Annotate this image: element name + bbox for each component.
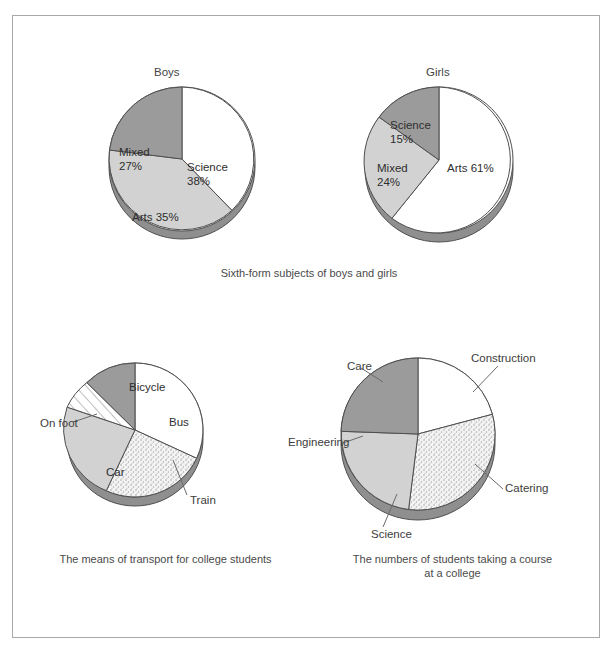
leader-line-construction <box>473 366 498 392</box>
pie-label-boys-science: Science 38% <box>187 161 228 188</box>
chart-transport-pie <box>35 354 305 544</box>
pie-label-girls-science-value: 15% <box>390 133 413 145</box>
chart-transport: On foot Bicycle Bus Car Train <box>35 354 305 544</box>
pie-label-girls-mixed-value: 24% <box>377 176 400 188</box>
caption-bottom-right: The numbers of students taking a course … <box>325 553 580 581</box>
caption-bottom-left: The means of transport for college stude… <box>33 553 298 567</box>
pie-label-girls-science-name: Science <box>390 119 431 131</box>
pie-label-boys-mixed-name: Mixed <box>119 146 150 158</box>
pie-label-boys-science-value: 38% <box>187 175 210 187</box>
chart-girls-pie <box>351 66 561 251</box>
pie-label-transport-car: Car <box>106 466 125 479</box>
pie-label-transport-onfoot: On foot <box>40 417 78 430</box>
pie-label-college-catering: Catering <box>505 482 548 495</box>
pie-label-college-science: Science <box>371 528 412 541</box>
chart-girls-title: Girls <box>426 66 450 79</box>
figure-frame: Boys Mixed 27% <box>12 15 600 638</box>
caption-top: Sixth-form subjects of boys and girls <box>159 267 459 281</box>
pie-label-girls-mixed-name: Mixed <box>377 162 408 174</box>
chart-college: Construction Care Catering Science Engin… <box>313 344 603 549</box>
pie-label-college-construction: Construction <box>471 352 536 365</box>
pie-label-college-engineering: Engineering <box>288 436 349 449</box>
chart-college-pie <box>313 344 603 549</box>
pie-label-girls-mixed: Mixed 24% <box>377 162 408 189</box>
chart-boys-title: Boys <box>154 66 180 79</box>
pie-label-girls-science: Science 15% <box>390 119 431 146</box>
pie-label-girls-arts: Arts 61% <box>447 162 494 175</box>
pie-label-college-care: Care <box>347 360 372 373</box>
pie-label-transport-train: Train <box>190 494 216 507</box>
chart-boys: Boys Mixed 27% <box>91 66 291 266</box>
pie-label-boys-arts: Arts 35% <box>132 211 179 224</box>
pie-label-boys-mixed: Mixed 27% <box>119 146 150 173</box>
pie-label-transport-bus: Bus <box>169 416 189 429</box>
chart-girls: Girls Science 15% Mixed 24% <box>351 66 561 266</box>
screenshot-page: Boys Mixed 27% <box>0 0 613 658</box>
pie-label-boys-science-name: Science <box>187 161 228 173</box>
pie-label-transport-bicycle: Bicycle <box>129 381 165 394</box>
pie-label-boys-mixed-value: 27% <box>119 160 142 172</box>
